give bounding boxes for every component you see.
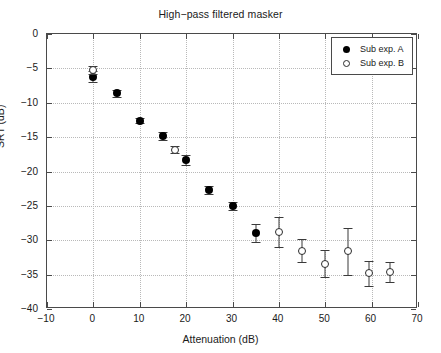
error-bar-cap — [274, 217, 283, 218]
legend-label-a: Sub exp. A — [357, 44, 404, 54]
error-bar-cap — [365, 286, 374, 287]
x-tick — [47, 302, 48, 307]
y-tick — [411, 103, 416, 104]
error-bar-cap — [344, 228, 353, 229]
figure-canvas: High−pass filtered masker Sub exp. A Sub… — [0, 0, 441, 353]
x-axis-title: Attenuation (dB) — [0, 333, 441, 345]
y-tick — [411, 137, 416, 138]
error-bar-cap — [274, 247, 283, 248]
y-tick — [47, 68, 52, 69]
gridline-horizontal — [47, 172, 416, 173]
plot-area: Sub exp. A Sub exp. B — [46, 33, 417, 308]
error-bar-cap — [205, 194, 214, 195]
x-tick — [93, 302, 94, 307]
data-point-b — [386, 268, 394, 276]
y-tick-label: −40 — [0, 303, 38, 314]
legend-item-a: Sub exp. A — [337, 42, 404, 56]
data-point-a — [159, 132, 167, 140]
y-tick — [47, 275, 52, 276]
x-tick — [279, 34, 280, 39]
x-tick — [372, 302, 373, 307]
data-point-b — [344, 247, 352, 255]
x-tick — [47, 34, 48, 39]
data-point-a — [182, 156, 190, 164]
data-point-a — [229, 202, 237, 210]
x-tick — [418, 302, 419, 307]
y-tick-label: −30 — [0, 234, 38, 245]
y-tick — [411, 172, 416, 173]
error-bar-cap — [228, 210, 237, 211]
x-tick — [186, 34, 187, 39]
y-tick-label: −5 — [0, 62, 38, 73]
x-tick-label: 30 — [212, 313, 252, 324]
y-tick — [411, 240, 416, 241]
x-tick — [325, 302, 326, 307]
y-tick-label: −25 — [0, 199, 38, 210]
x-tick-label: 20 — [165, 313, 205, 324]
x-tick-label: 0 — [72, 313, 112, 324]
data-point-a — [113, 89, 121, 97]
y-tick — [47, 103, 52, 104]
open-circle-icon — [337, 60, 357, 67]
x-tick-label: 40 — [258, 313, 298, 324]
data-point-a — [136, 117, 144, 125]
error-bar-cap — [89, 74, 98, 75]
y-tick — [411, 34, 416, 35]
x-tick-label: 10 — [119, 313, 159, 324]
filled-circle-icon — [337, 46, 357, 53]
y-tick-label: −35 — [0, 268, 38, 279]
legend-label-b: Sub exp. B — [357, 58, 404, 68]
gridline-vertical — [186, 34, 187, 307]
data-point-b — [321, 260, 329, 268]
gridline-horizontal — [47, 240, 416, 241]
error-bar-cap — [182, 165, 191, 166]
x-tick-label: 50 — [304, 313, 344, 324]
data-point-b — [365, 269, 373, 277]
y-tick-label: −20 — [0, 165, 38, 176]
x-tick — [279, 302, 280, 307]
y-axis-title: SRT (dB) — [0, 105, 6, 148]
x-tick — [325, 34, 326, 39]
y-tick — [47, 172, 52, 173]
chart-title: High−pass filtered masker — [0, 8, 441, 20]
error-bar-cap — [298, 262, 307, 263]
gridline-vertical — [140, 34, 141, 307]
error-bar-cap — [89, 82, 98, 83]
gridline-horizontal — [47, 275, 416, 276]
x-tick-label: −10 — [26, 313, 66, 324]
error-bar-cap — [365, 261, 374, 262]
y-tick — [47, 137, 52, 138]
data-point-b — [298, 247, 306, 255]
x-tick — [93, 34, 94, 39]
x-tick-label: 70 — [397, 313, 437, 324]
x-tick — [140, 34, 141, 39]
legend-box: Sub exp. A Sub exp. B — [331, 37, 413, 75]
x-tick — [233, 302, 234, 307]
y-tick — [47, 206, 52, 207]
y-tick-label: 0 — [0, 28, 38, 39]
error-bar-cap — [321, 277, 330, 278]
error-bar-cap — [251, 224, 260, 225]
x-tick — [233, 34, 234, 39]
x-tick-label: 60 — [351, 313, 391, 324]
data-point-b — [275, 228, 283, 236]
gridline-vertical — [233, 34, 234, 307]
error-bar-cap — [298, 239, 307, 240]
error-bar-cap — [386, 282, 395, 283]
y-tick — [47, 240, 52, 241]
y-tick — [411, 275, 416, 276]
gridline-horizontal — [47, 137, 416, 138]
error-bar-cap — [158, 140, 167, 141]
error-bar-cap — [386, 262, 395, 263]
data-point-a — [252, 229, 260, 237]
data-point-b — [89, 66, 97, 74]
y-tick — [47, 309, 52, 310]
data-point-b — [171, 146, 179, 154]
x-tick — [418, 34, 419, 39]
y-tick — [411, 206, 416, 207]
error-bar-cap — [251, 242, 260, 243]
y-tick — [411, 309, 416, 310]
gridline-horizontal — [47, 103, 416, 104]
x-tick — [140, 302, 141, 307]
gridline-vertical — [279, 34, 280, 307]
